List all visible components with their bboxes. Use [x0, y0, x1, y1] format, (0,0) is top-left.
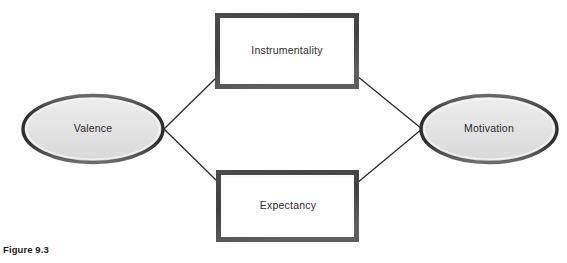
motivation-label: Motivation	[464, 122, 514, 134]
expectancy-theory-diagram: Valence Instrumentality Expectancy Motiv…	[0, 0, 567, 263]
connector-valence-instrumentality	[164, 76, 218, 129]
connector-expectancy-motivation	[357, 129, 422, 183]
connector-instrumentality-motivation	[357, 76, 422, 129]
node-motivation[interactable]: Motivation	[421, 96, 557, 163]
instrumentality-label: Instrumentality	[251, 44, 323, 56]
connector-lines	[164, 76, 422, 183]
figure-caption: Figure 9.3	[3, 244, 49, 255]
figure-canvas: Valence Instrumentality Expectancy Motiv…	[0, 0, 567, 263]
node-valence[interactable]: Valence	[23, 96, 163, 163]
expectancy-label: Expectancy	[260, 199, 317, 211]
node-expectancy[interactable]: Expectancy	[219, 173, 357, 240]
connector-valence-expectancy	[164, 129, 219, 183]
node-instrumentality[interactable]: Instrumentality	[218, 16, 357, 87]
valence-label: Valence	[74, 122, 113, 134]
